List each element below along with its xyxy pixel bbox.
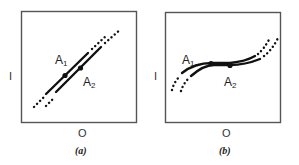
panel-b-curve-2-dotted-lower bbox=[181, 78, 189, 91]
panel-a-x-axis-label: O bbox=[78, 127, 87, 139]
panel-a-y-axis-label: I bbox=[9, 70, 12, 82]
figure: A1 A2 I O (a) A1 A2 I O (b) bbox=[0, 0, 299, 165]
panel-b-caption: (b) bbox=[219, 145, 231, 157]
panel-a: A1 A2 I O (a) bbox=[9, 12, 137, 158]
panel-a-caption: (a) bbox=[75, 145, 87, 157]
panel-a-line-1-dotted-lower bbox=[34, 96, 45, 107]
panel-b-label-a1: A1 bbox=[182, 53, 195, 68]
panel-b-curve-2-solid bbox=[191, 59, 260, 76]
panel-a-point-a1 bbox=[62, 73, 67, 78]
panel-b-curve-1-dotted-upper bbox=[258, 38, 270, 54]
panel-a-line-2-dotted-lower bbox=[46, 97, 55, 106]
panel-b-x-axis-label: O bbox=[222, 127, 231, 139]
panel-a-label-a2: A2 bbox=[83, 75, 96, 90]
panel-b-curve-1-dotted-lower bbox=[172, 76, 180, 90]
panel-b-label-a2: A2 bbox=[224, 75, 237, 90]
panel-b: A1 A2 I O (b) bbox=[154, 13, 281, 158]
panel-b-point-a1 bbox=[208, 61, 213, 66]
panel-b-curve-2-dotted-upper bbox=[264, 38, 278, 56]
panel-a-point-a2 bbox=[78, 65, 83, 70]
panel-a-line-1-dotted-upper bbox=[92, 36, 106, 49]
panel-a-line-2-dotted-upper bbox=[105, 29, 121, 43]
panel-b-frame bbox=[166, 13, 281, 123]
panel-b-y-axis-label: I bbox=[154, 70, 157, 82]
panel-a-label-a1: A1 bbox=[55, 53, 68, 68]
panel-b-point-a2 bbox=[227, 63, 232, 68]
